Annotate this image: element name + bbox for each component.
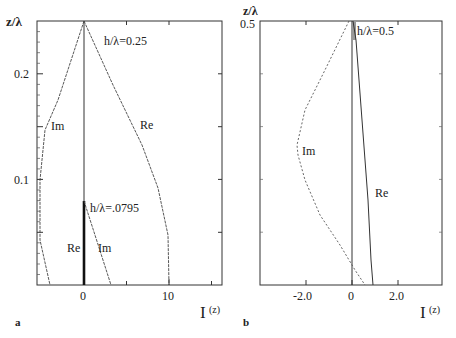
panel-b-x-tick-0: 0 <box>348 289 354 303</box>
panel-b-y-tick-0-5: 0.5 <box>240 17 255 31</box>
panel-a-label: a <box>15 316 21 328</box>
panel-a-y-axis-label: z/λ <box>6 14 22 29</box>
panel-b-label-re: Re <box>375 186 388 200</box>
panel-a-annotation-h0795: h/λ=.0795 <box>90 201 139 215</box>
panel-b-y-ticks <box>260 74 442 232</box>
panel-b-label-im: Im <box>302 144 316 158</box>
panel-a-y-tick-0-1: 0.1 <box>14 173 29 187</box>
panel-a-re-curve-h025 <box>84 21 169 285</box>
panel-b-x-tick-2: 2.0 <box>389 289 404 303</box>
panel-a-x-tick-0: 0 <box>80 289 86 303</box>
panel-a-label-im-low: Im <box>98 241 112 255</box>
panel-b-x-axis-label-sub: (z) <box>429 304 440 316</box>
figure: z/λ 0.2 0.1 0 10 I (z) h/λ=0.25 h/λ=.079… <box>0 0 456 338</box>
panel-a-x-tick-10: 10 <box>162 289 174 303</box>
panel-b-annotation-h05: h/λ=0.5 <box>357 24 394 38</box>
panel-a-x-axis-label-sub: (z) <box>209 304 220 316</box>
panel-b-x-axis-label: I <box>420 303 426 322</box>
panel-b-frame <box>260 21 442 285</box>
panel-a-label-im-top: Im <box>51 119 65 133</box>
panel-a-label-re-top: Re <box>140 118 153 132</box>
panel-a-frame <box>37 21 222 285</box>
panel-b-y-axis-label: z/λ <box>243 4 258 18</box>
panel-a: z/λ 0.2 0.1 0 10 I (z) h/λ=0.25 h/λ=.079… <box>6 14 222 328</box>
panel-a-annotation-h025: h/λ=0.25 <box>104 34 147 48</box>
panel-a-label-re-low: Re <box>67 241 80 255</box>
panel-b: z/λ 0.5 -2.0 0 2.0 I (z) h/λ=0.5 Im Re b <box>240 4 442 328</box>
panel-b-label: b <box>243 316 249 328</box>
panel-b-x-tick-neg2: -2.0 <box>293 289 312 303</box>
panel-a-y-tick-0-2: 0.2 <box>14 67 29 81</box>
panel-a-x-axis-label: I <box>200 303 206 322</box>
panel-b-re-curve <box>353 21 373 285</box>
